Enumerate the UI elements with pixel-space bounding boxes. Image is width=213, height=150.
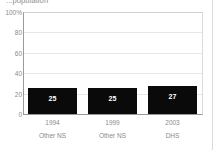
bar-value-label: 25	[28, 95, 77, 103]
x-axis: 1994 Other NS 1999 Other NS 2003 DHS	[24, 118, 203, 148]
x-axis-tick-source: DHS	[148, 131, 197, 140]
x-axis-tick-year: 2003	[148, 118, 197, 127]
x-axis-tick-year: 1994	[28, 118, 77, 127]
bar-value-label: 27	[148, 93, 197, 101]
y-axis-tick-label: 20	[1, 91, 22, 98]
y-axis-tick-label: 60	[1, 50, 22, 57]
x-axis-tick-source: Other NS	[88, 131, 137, 140]
x-axis-tick-2003: 2003 DHS	[148, 118, 197, 140]
x-axis-tick-year: 1999	[88, 118, 137, 127]
bar[interactable]: 27	[148, 86, 197, 114]
bar-chart: ...population 100% 80 60 40 20 0 25 25 2…	[0, 0, 213, 150]
x-axis-tick-1994: 1994 Other NS	[28, 118, 77, 140]
bars-layer: 25 25 27	[24, 12, 203, 114]
x-axis-tick-source: Other NS	[28, 131, 77, 140]
bar-group: 27	[148, 12, 197, 114]
y-axis-tick-label: 0	[1, 111, 22, 118]
chart-title: ...population	[6, 0, 206, 5]
bar[interactable]: 25	[88, 88, 137, 114]
bar-value-label: 25	[88, 95, 137, 103]
bar[interactable]: 25	[28, 88, 77, 114]
bar-group: 25	[88, 12, 137, 114]
y-axis: 100% 80 60 40 20 0	[0, 12, 22, 115]
y-axis-tick-label: 80	[1, 29, 22, 36]
y-axis-tick-label: 40	[1, 70, 22, 77]
bar-group: 25	[28, 12, 77, 114]
y-axis-tick-label: 100%	[1, 9, 22, 16]
x-axis-tick-1999: 1999 Other NS	[88, 118, 137, 140]
